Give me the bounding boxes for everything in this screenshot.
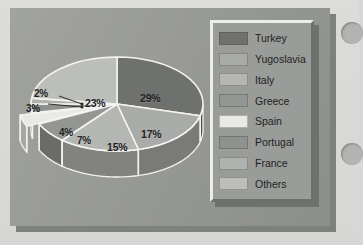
binder-hole-top-icon: [341, 22, 363, 44]
pie-label-italy: 15%: [107, 141, 127, 153]
legend-swatch-icon: [219, 157, 248, 170]
pie-label-portugal: 3%: [26, 103, 40, 114]
legend-item-portugal[interactable]: Portugal: [219, 132, 307, 153]
chart-legend[interactable]: TurkeyYugoslaviaItalyGreeceSpainPortugal…: [210, 20, 314, 202]
legend-item-label: Portugal: [255, 137, 294, 148]
pie-label-spain: 4%: [59, 127, 73, 138]
legend-swatch-icon: [219, 94, 248, 107]
legend-item-label: Yugoslavia: [255, 54, 306, 65]
legend-swatch-icon: [219, 177, 248, 190]
label-leader-arrow: [80, 102, 83, 105]
pie-label-greece: 7%: [77, 135, 91, 146]
legend-item-label: Turkey: [255, 33, 287, 44]
legend-item-others[interactable]: Others: [219, 174, 307, 195]
legend-swatch-icon: [219, 53, 248, 66]
legend-item-italy[interactable]: Italy: [219, 70, 307, 91]
pie-chart-svg: [10, 8, 224, 226]
legend-item-turkey[interactable]: Turkey: [219, 28, 307, 49]
legend-item-label: France: [255, 158, 288, 169]
pie-label-yugoslavia: 17%: [141, 128, 161, 140]
binder-hole-bottom-icon: [341, 143, 363, 165]
legend-item-label: Greece: [255, 96, 289, 107]
pie-label-turkey: 29%: [140, 92, 160, 104]
pie-label-france: 2%: [34, 88, 48, 99]
label-leader-arrow: [80, 105, 83, 108]
legend-item-spain[interactable]: Spain: [219, 111, 307, 132]
pie-chart: 29%17%15%7%4%3%2%23%: [10, 8, 224, 226]
legend-swatch-icon: [219, 32, 248, 45]
legend-item-label: Italy: [255, 75, 274, 86]
legend-item-label: Spain: [255, 116, 282, 127]
legend-item-greece[interactable]: Greece: [219, 90, 307, 111]
legend-swatch-icon: [219, 136, 248, 149]
legend-swatch-icon: [219, 73, 248, 86]
legend-rows: TurkeyYugoslaviaItalyGreeceSpainPortugal…: [219, 28, 307, 194]
legend-item-yugoslavia[interactable]: Yugoslavia: [219, 49, 307, 70]
legend-item-label: Others: [255, 179, 287, 190]
legend-swatch-icon: [219, 115, 248, 128]
pie-label-others: 23%: [85, 97, 105, 109]
legend-item-france[interactable]: France: [219, 153, 307, 174]
